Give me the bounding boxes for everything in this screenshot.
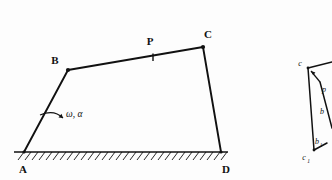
label-joint-C: C xyxy=(204,28,212,40)
link-crank-AB xyxy=(24,70,68,152)
joint-dot-B xyxy=(66,68,70,72)
velocity-edge-c-top xyxy=(308,62,332,68)
ground-hatching xyxy=(18,152,227,160)
diagram-canvas: B P C A D ω, α c p b b 1 c 1 xyxy=(0,0,332,180)
label-velocity-b1-base: b xyxy=(315,137,319,146)
label-joint-A-text-B: B xyxy=(51,54,59,66)
label-velocity-c1-subscript: 1 xyxy=(307,158,310,164)
label-velocity-c1-base: c xyxy=(302,153,306,162)
velocity-edge-c-c1 xyxy=(308,68,314,150)
joint-dot-D xyxy=(219,150,222,153)
kinematic-diagram-figure: B P C A D ω, α c p b b 1 c 1 xyxy=(0,0,332,180)
velocity-inner-arrow xyxy=(311,71,320,82)
link-coupler-BC xyxy=(68,47,203,70)
label-velocity-b1: b 1 xyxy=(315,137,323,148)
joint-dot-C xyxy=(201,45,205,49)
velocity-node-c xyxy=(307,67,310,70)
label-velocity-c: c xyxy=(298,59,302,68)
label-velocity-b1-subscript: 1 xyxy=(320,142,323,148)
velocity-inner-arrowhead xyxy=(311,71,315,75)
ground-link-AD xyxy=(14,152,228,160)
label-coupler-point-P: P xyxy=(147,35,154,47)
joint-dot-A xyxy=(22,150,25,153)
label-velocity-p: p xyxy=(321,85,326,94)
label-joint-D: D xyxy=(222,163,230,175)
label-joint-A: A xyxy=(19,163,27,175)
link-rocker-CD xyxy=(203,47,221,152)
label-velocity-b: b xyxy=(320,107,324,116)
label-omega-alpha: ω, α xyxy=(66,109,83,119)
label-velocity-c1: c 1 xyxy=(302,153,310,164)
velocity-node-c1 xyxy=(313,149,316,152)
